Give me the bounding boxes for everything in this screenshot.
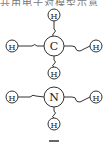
hydrogen-atom: H	[90, 91, 102, 103]
svg-text:H: H	[93, 94, 100, 103]
bond-diagram: C H H H H N H H H	[0, 0, 108, 142]
svg-text:H: H	[93, 43, 100, 52]
nitrogen-label: N	[49, 91, 59, 104]
hydrogen-atom: H	[48, 9, 60, 21]
hydrogen-atom: H	[48, 67, 60, 79]
svg-text:H: H	[9, 43, 16, 52]
bond-c-h-right	[64, 46, 90, 51]
bond-n-h-left	[18, 95, 44, 97]
bond-n-h-bottom	[53, 107, 56, 118]
hydrogen-atom: H	[90, 40, 102, 52]
hydrogen-atom: H	[6, 40, 18, 52]
bond-c-h-top	[53, 21, 56, 37]
methane-molecule: C H H H H	[6, 9, 102, 79]
svg-text:H: H	[51, 70, 58, 79]
hydrogen-atom: H	[48, 118, 60, 130]
bond-n-h-right	[64, 97, 90, 102]
svg-text:H: H	[9, 94, 16, 103]
bond-c-h-bottom	[53, 56, 56, 67]
bond-c-h-left	[18, 45, 44, 47]
svg-text:H: H	[51, 12, 58, 21]
svg-text:H: H	[51, 121, 58, 130]
carbon-label: C	[50, 40, 58, 53]
hydrogen-atom: H	[6, 91, 18, 103]
